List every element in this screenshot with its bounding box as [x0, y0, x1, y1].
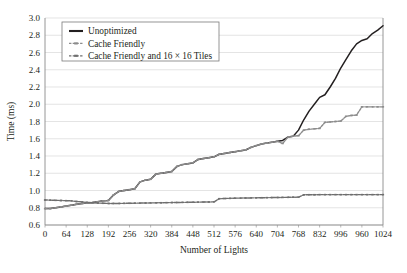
- x-axis-tick-label: 832: [313, 229, 327, 239]
- x-axis-tick-label: 192: [102, 229, 116, 239]
- series-line-1: [45, 107, 383, 209]
- x-axis-tick-label: 64: [62, 229, 72, 239]
- x-axis-tick-label: 512: [207, 229, 221, 239]
- x-axis-tick-label: 640: [250, 229, 264, 239]
- x-axis-tick-label: 448: [186, 229, 200, 239]
- x-axis-tick-label: 320: [144, 229, 158, 239]
- legend-label-2: Cache Friendly and 16 × 16 Tiles: [88, 51, 212, 61]
- x-axis-title: Number of Lights: [180, 245, 248, 255]
- y-axis-tick-label: 1.2: [29, 168, 40, 178]
- legend-label-0: Unoptimized: [88, 26, 137, 36]
- y-axis-tick-label: 1.0: [29, 186, 41, 196]
- y-axis-tick-label: 0.6: [29, 220, 41, 230]
- line-chart: 0.60.81.01.21.41.61.82.02.22.42.62.83.00…: [0, 0, 407, 273]
- x-axis-tick-label: 1024: [374, 229, 393, 239]
- y-axis-tick-label: 1.8: [29, 117, 41, 127]
- y-axis-tick-label: 2.8: [29, 30, 41, 40]
- y-axis-tick-label: 1.4: [29, 151, 41, 161]
- x-axis-tick-label: 960: [355, 229, 369, 239]
- x-axis-tick-label: 996: [334, 229, 348, 239]
- y-axis-tick-label: 3.0: [29, 13, 41, 23]
- y-axis-tick-label: 2.2: [29, 82, 40, 92]
- y-axis-tick-label: 0.8: [29, 203, 41, 213]
- chart-figure: 0.60.81.01.21.41.61.82.02.22.42.62.83.00…: [0, 0, 407, 273]
- x-axis-tick-label: 384: [165, 229, 179, 239]
- y-axis-title: Time (ms): [6, 102, 17, 142]
- x-axis-tick-label: 704: [271, 229, 285, 239]
- y-axis-tick-label: 2.6: [29, 48, 41, 58]
- legend-label-1: Cache Friendly: [88, 39, 145, 49]
- y-axis-tick-label: 2.0: [29, 99, 41, 109]
- x-axis-tick-label: 128: [81, 229, 95, 239]
- x-axis-tick-label: 0: [43, 229, 48, 239]
- x-axis-tick-label: 768: [292, 229, 306, 239]
- x-axis-tick-label: 256: [123, 229, 137, 239]
- x-axis-tick-label: 576: [228, 229, 242, 239]
- y-axis-tick-label: 1.6: [29, 134, 41, 144]
- y-axis-tick-label: 2.4: [29, 65, 41, 75]
